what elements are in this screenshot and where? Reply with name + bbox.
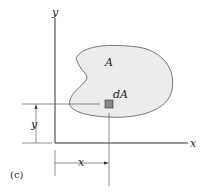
da-element: [105, 100, 113, 108]
diagram-canvas: y x A dA y x (c): [0, 0, 205, 193]
x-dimension-arrow-icon: [104, 162, 109, 165]
y-dimension-arrow-icon: [35, 104, 38, 109]
element-label: dA: [113, 88, 128, 101]
y-axis-label: y: [51, 6, 59, 19]
x-axis-label: x: [190, 137, 197, 150]
area-element-diagram: y x A dA y x (c): [0, 0, 205, 193]
x-dimension-label: x: [78, 156, 85, 169]
figure-caption: (c): [10, 169, 24, 180]
region-a: [69, 45, 172, 117]
y-dimension-label: y: [30, 118, 38, 131]
area-label: A: [104, 56, 113, 69]
